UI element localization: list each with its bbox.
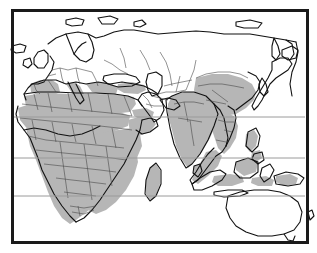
world-map-canvas xyxy=(0,0,317,253)
world-map-figure xyxy=(0,0,317,253)
